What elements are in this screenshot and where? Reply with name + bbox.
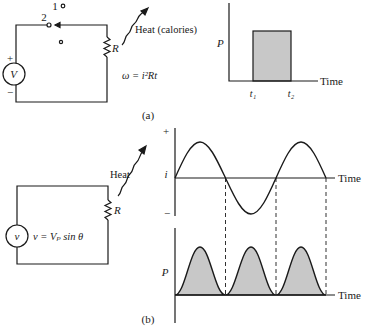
power-graph-b: P Time (161, 228, 361, 323)
heat-label-b: Heat (110, 169, 130, 180)
current-graph-b: + i − Time (163, 125, 361, 219)
figure-b-circuit (6, 146, 146, 264)
power-pulse-area (253, 31, 291, 81)
time-axis-label-a: Time (320, 75, 343, 87)
power-sin2-area (175, 247, 326, 295)
energy-equation: ω = i²Rt (122, 70, 158, 81)
i-axis-label: i (164, 168, 167, 180)
figure-a-circuit (3, 4, 148, 102)
resistor-b-icon (105, 200, 111, 220)
caption-b: (b) (142, 313, 155, 326)
resistor-label-a: R (111, 42, 119, 54)
time-axis-label-p: Time (338, 289, 361, 301)
ac-voltage-equation: v = Vₚ sin θ (33, 231, 83, 242)
power-graph-a: P Time t₁ t₂ (216, 3, 343, 99)
resistor-a-icon (104, 37, 110, 57)
ac-dc-power-diagram: V + − 1 2 R Heat (calories) ω = i²Rt (a)… (0, 0, 367, 332)
switch-pos-1-label: 1 (52, 0, 58, 12)
minus-sign-b: − (164, 207, 170, 219)
plus-sign-b: + (163, 125, 169, 137)
t2-label: t₂ (288, 88, 295, 99)
caption-a: (a) (142, 109, 155, 122)
source-label-b: v (15, 230, 20, 242)
t1-label: t₁ (250, 88, 256, 99)
heat-label-a: Heat (calories) (135, 24, 198, 36)
p-axis-label-a: P (216, 37, 224, 49)
minus-sign-a: − (7, 86, 13, 98)
plus-sign-a: + (7, 52, 13, 64)
switch-pos-2-label: 2 (41, 11, 47, 23)
figure-a-labels: V + − 1 2 R Heat (calories) ω = i²Rt (a) (7, 0, 198, 122)
figure-b-labels: v v = Vₚ sin θ R Heat (b) (15, 169, 155, 326)
resistor-label-b: R (113, 204, 121, 216)
time-axis-label-i: Time (338, 172, 361, 184)
p-axis-label-b: P (161, 266, 169, 278)
